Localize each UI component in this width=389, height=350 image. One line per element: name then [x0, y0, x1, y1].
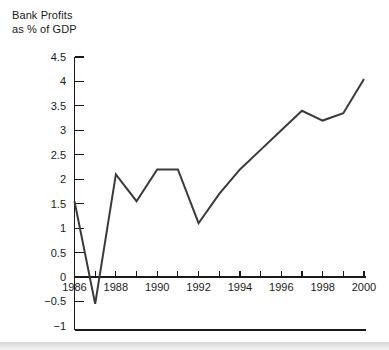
chart-x-ticks [75, 271, 365, 277]
x-tick-label: 1986 [55, 282, 95, 293]
x-tick-label: 2000 [344, 282, 384, 293]
x-tick-label: 1990 [137, 282, 177, 293]
y-tick-label: 3.5 [26, 101, 66, 112]
y-tick-label: 0.5 [26, 248, 66, 259]
series-line-bank-profits [75, 79, 365, 304]
x-tick-label: 1996 [261, 282, 301, 293]
y-tick-label: 4.5 [26, 52, 66, 63]
y-tick-label: 4 [26, 76, 66, 87]
y-tick-label: −1 [26, 321, 66, 332]
y-tick-label: 3 [26, 125, 66, 136]
page-footer-bar [0, 342, 389, 350]
chart-data-series [75, 79, 365, 304]
x-tick-label: 1988 [96, 282, 136, 293]
chart-y-ticks [75, 57, 84, 301]
y-tick-label: 1 [26, 223, 66, 234]
x-tick-label: 1998 [303, 282, 343, 293]
x-tick-label: 1994 [220, 282, 260, 293]
y-tick-label: −0.5 [26, 296, 66, 307]
y-tick-label: 2 [26, 174, 66, 185]
y-tick-label: 2.5 [26, 150, 66, 161]
chart-container: Bank Profitsas % of GDP 4.543.532.521.51… [0, 0, 389, 350]
x-tick-label: 1992 [179, 282, 219, 293]
y-tick-label: 1.5 [26, 199, 66, 210]
